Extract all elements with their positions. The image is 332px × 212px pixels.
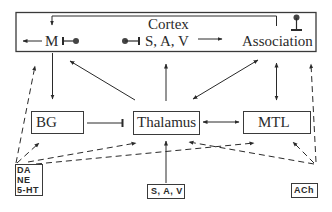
mtl-label: MTL [258, 115, 290, 130]
association-inhibition-icon [291, 15, 302, 31]
cortex-title: Cortex [148, 17, 189, 32]
cortex-region-sensory: S, A, V [145, 34, 189, 49]
monoamine-to-mtl-dashed-arrow [36, 143, 254, 164]
bg-label: BG [36, 115, 57, 130]
m-inhibition-icon [63, 37, 79, 45]
association-thalamus-bidirectional-arrow [193, 60, 258, 99]
ach-to-mtl-dashed-arrow [293, 142, 314, 163]
monoamine-ne-label: NE [17, 176, 31, 185]
thalamus-to-m-arrow [70, 61, 135, 100]
thalamus-label: Thalamus [137, 115, 196, 130]
bg-to-thalamus-inhibitory-line [87, 119, 123, 127]
cortex-region-association: Association [242, 34, 313, 49]
ach-to-cortex-dashed-arrow [311, 64, 316, 162]
monoamine-to-thalamus-dashed-arrow [28, 143, 136, 162]
ach-label: ACh [294, 186, 314, 195]
sensory-input-label: S, A, V [151, 187, 183, 196]
monoamine-5ht-label: 5-HT [17, 186, 39, 195]
monoamine-to-bg-dashed-arrow [17, 143, 39, 163]
cortex-region-motor: M [45, 34, 58, 49]
sav-cortex-inhibition-icon [122, 37, 139, 45]
ach-to-thalamus-dashed-arrow [189, 142, 314, 164]
monoamine-da-label: DA [17, 166, 31, 175]
